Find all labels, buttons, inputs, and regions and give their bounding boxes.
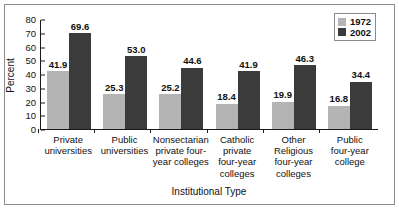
x-axis-category-label: Catholicprivatefour-yearcolleges (209, 134, 265, 186)
bar-value-label: 34.4 (352, 70, 371, 80)
y-axis-title-text: Percent (5, 58, 16, 92)
bar-value-label: 69.6 (71, 22, 90, 32)
bar-rect (294, 65, 316, 129)
bar-2002[interactable]: 44.6 (181, 20, 203, 129)
x-axis-category-label-line: four-year (265, 156, 321, 167)
bar-rect (103, 94, 125, 129)
x-axis-category-label-line: Nonsectarian (153, 134, 209, 145)
bar-rect (159, 94, 181, 129)
x-axis-category-label: Publicfour-yearcollege (322, 134, 378, 186)
y-axis-tick-label: 10 (25, 112, 41, 122)
x-axis-title: Institutional Type (40, 186, 378, 197)
bar-value-label: 44.6 (183, 56, 202, 66)
x-axis-tick-mark (38, 129, 39, 133)
x-axis-category-label-line: Private (40, 134, 96, 145)
y-axis-tick-label: 70 (25, 29, 41, 39)
bar-value-label: 46.3 (295, 54, 314, 64)
bar-value-label: 18.4 (217, 92, 236, 102)
x-axis-tick-mark (207, 129, 208, 133)
x-axis-category-label-line: four-year (322, 145, 378, 156)
x-axis-category-label: Nonsectarianprivate four-year colleges (153, 134, 209, 186)
legend-item-2002[interactable]: 2002 (338, 28, 371, 38)
bar-value-label: 41.9 (49, 60, 68, 70)
y-axis-tick-label: 30 (25, 84, 41, 94)
bar-value-label: 16.8 (330, 94, 349, 104)
y-axis-tick-label: 20 (25, 98, 41, 108)
x-axis-tick-mark (94, 129, 95, 133)
bar-1972[interactable]: 25.2 (159, 20, 181, 129)
bar-group: 18.441.9 (216, 20, 260, 129)
x-axis-category-label-line: college (322, 156, 378, 167)
legend-item-1972[interactable]: 1972 (338, 17, 371, 27)
x-axis-category-label-line: universities (96, 145, 152, 156)
legend-item-label: 2002 (350, 28, 371, 38)
legend-swatch-icon (338, 28, 346, 36)
x-axis-category-label-line: Public (322, 134, 378, 145)
x-axis-category-labels: PrivateuniversitiesPublicuniversitiesNon… (40, 134, 378, 186)
bar-value-label: 19.9 (273, 90, 292, 100)
bar-rect (47, 71, 69, 129)
x-axis-category-label-line: Religious (265, 145, 321, 156)
bar-rect (238, 71, 260, 129)
x-axis-category-label-line: year colleges (153, 156, 209, 167)
bar-2002[interactable]: 53.0 (125, 20, 147, 129)
y-axis-tick-label: 80 (25, 15, 41, 25)
bar-value-label: 53.0 (127, 45, 146, 55)
x-axis-category-label-line: four-year (209, 156, 265, 167)
x-axis-category-label-line: private four- (153, 145, 209, 156)
x-axis-category-label-line: private (209, 145, 265, 156)
x-axis-tick-mark (319, 129, 320, 133)
x-axis-category-label: Publicuniversities (96, 134, 152, 186)
x-axis-tick-mark (263, 129, 264, 133)
chart-legend: 19722002 (334, 13, 376, 41)
y-axis-tick-mark (41, 130, 45, 131)
bar-rect (69, 33, 91, 129)
x-axis-category-label-line: colleges (265, 168, 321, 179)
x-axis-category-label-line: colleges (209, 168, 265, 179)
y-axis-title: Percent (2, 20, 18, 130)
bar-value-label: 41.9 (239, 60, 258, 70)
bar-2002[interactable]: 46.3 (294, 20, 316, 129)
bar-rect (350, 82, 372, 129)
bar-group: 25.244.6 (159, 20, 203, 129)
plot-area: 01020304050607080 41.969.625.353.025.244… (40, 20, 378, 130)
legend-swatch-icon (338, 18, 346, 26)
bar-2002[interactable]: 69.6 (69, 20, 91, 129)
bar-1972[interactable]: 25.3 (103, 20, 125, 129)
bar-2002[interactable]: 41.9 (238, 20, 260, 129)
bar-rect (216, 104, 238, 129)
bar-value-label: 25.2 (161, 83, 180, 93)
x-axis-category-label: OtherReligiousfour-yearcolleges (265, 134, 321, 186)
bar-1972[interactable]: 19.9 (272, 20, 294, 129)
x-axis-category-label-line: Catholic (209, 134, 265, 145)
bar-rect (125, 56, 147, 129)
y-axis-tick-label: 50 (25, 57, 41, 67)
y-axis-tick-label: 40 (25, 70, 41, 80)
bar-chart-figure: Percent 01020304050607080 41.969.625.353… (0, 0, 399, 209)
x-axis-category-label-line: Public (96, 134, 152, 145)
bar-group: 19.946.3 (272, 20, 316, 129)
bar-groups: 41.969.625.353.025.244.618.441.919.946.3… (41, 20, 378, 129)
bar-rect (272, 102, 294, 129)
bar-1972[interactable]: 41.9 (47, 20, 69, 129)
x-axis-category-label-line: Other (265, 134, 321, 145)
bar-rect (328, 106, 350, 129)
y-axis-tick-label: 60 (25, 43, 41, 53)
bar-1972[interactable]: 18.4 (216, 20, 238, 129)
bar-group: 41.969.6 (47, 20, 91, 129)
x-axis-tick-mark (150, 129, 151, 133)
bar-group: 25.353.0 (103, 20, 147, 129)
bar-rect (181, 68, 203, 129)
x-axis-category-label-line: universities (40, 145, 96, 156)
bar-value-label: 25.3 (105, 83, 124, 93)
legend-item-label: 1972 (350, 17, 371, 27)
x-axis-category-label: Privateuniversities (40, 134, 96, 186)
